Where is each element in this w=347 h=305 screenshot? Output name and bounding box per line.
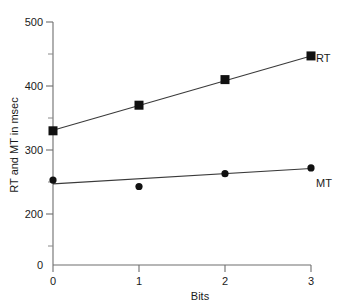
data-point-mt-2 bbox=[221, 170, 228, 177]
series-rt bbox=[49, 51, 316, 135]
data-point-rt-3 bbox=[307, 51, 316, 60]
data-point-mt-3 bbox=[307, 164, 314, 171]
y-tick-label-300: 300 bbox=[25, 144, 43, 156]
y-tick-label-500: 500 bbox=[25, 16, 43, 28]
plot-area bbox=[49, 51, 316, 190]
series-label-rt: RT bbox=[316, 52, 331, 64]
series-label-mt: MT bbox=[316, 177, 332, 189]
x-axis-title: Bits bbox=[191, 290, 210, 302]
y-tick-label-0: 0 bbox=[37, 259, 43, 271]
data-point-rt-2 bbox=[221, 75, 230, 84]
chart-figure: 500 400 300 200 0 0 1 2 3 Bits RT and MT… bbox=[0, 0, 347, 305]
x-tick-label-1: 1 bbox=[136, 275, 142, 287]
data-point-mt-0 bbox=[49, 176, 56, 183]
data-point-rt-1 bbox=[135, 101, 144, 110]
data-point-rt-0 bbox=[49, 126, 58, 135]
y-tick-label-400: 400 bbox=[25, 80, 43, 92]
fit-line-rt bbox=[53, 56, 311, 130]
x-tick-label-2: 2 bbox=[222, 275, 228, 287]
y-axis-title: RT and MT in msec bbox=[8, 97, 20, 193]
x-tick-label-0: 0 bbox=[50, 275, 56, 287]
x-tick-label-3: 3 bbox=[308, 275, 314, 287]
chart-canvas: 500 400 300 200 0 0 1 2 3 Bits RT and MT… bbox=[0, 0, 347, 305]
series-mt bbox=[49, 164, 314, 190]
y-tick-label-200: 200 bbox=[25, 208, 43, 220]
fit-line-mt bbox=[53, 169, 311, 184]
data-point-mt-1 bbox=[135, 183, 142, 190]
x-axis-ticks bbox=[53, 265, 311, 272]
